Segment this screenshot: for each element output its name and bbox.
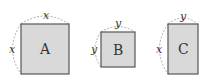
side-dimension-c: x (156, 43, 163, 56)
top-dimension-c: y (179, 10, 187, 23)
label-a: A (39, 41, 51, 57)
area-diagram: x x A y y B y x C (0, 0, 200, 84)
label-c: C (178, 41, 189, 57)
top-dimension-b: y (114, 17, 122, 30)
shape-b: y y B (90, 17, 135, 67)
top-dimension-a: x (43, 9, 50, 22)
side-dimension-a: x (9, 43, 16, 56)
side-dimension-b: y (90, 43, 98, 56)
shape-a: x x A (9, 9, 69, 74)
shape-c: y x C (156, 10, 198, 74)
label-b: B (113, 42, 123, 58)
